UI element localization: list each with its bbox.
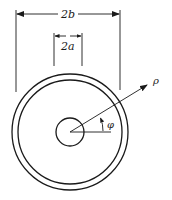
coax-diagram: 2b 2a ρ φ xyxy=(0,0,172,200)
inner-diameter-label: 2a xyxy=(60,40,75,53)
rho-label: ρ xyxy=(152,75,159,86)
phi-label: φ xyxy=(107,119,114,130)
outer-diameter-label: 2b xyxy=(60,8,75,21)
phi-arc xyxy=(101,118,104,131)
inner-diameter-dimension: 2a xyxy=(54,33,82,66)
